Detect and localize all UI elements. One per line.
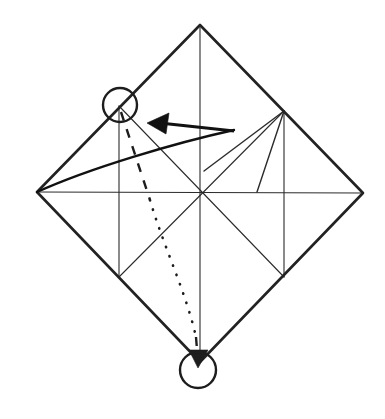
origami-fold-diagram	[0, 0, 385, 419]
fold-diagram-canvas	[0, 0, 385, 419]
